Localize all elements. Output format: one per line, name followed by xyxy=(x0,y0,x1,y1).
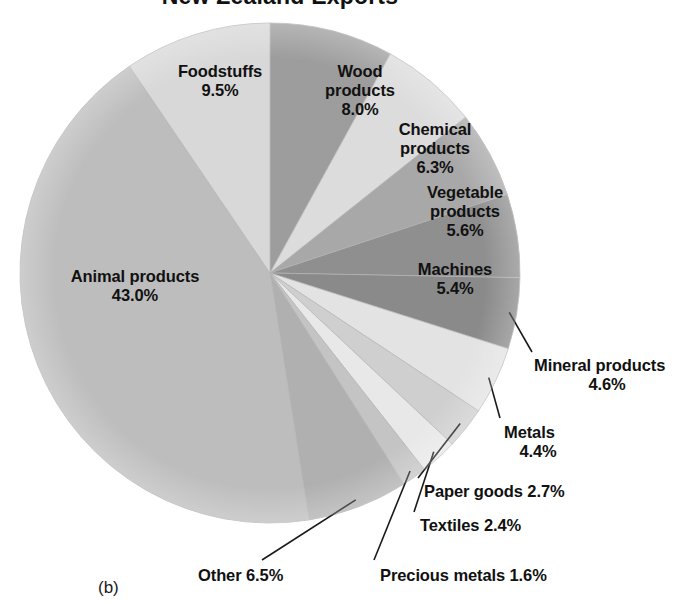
slice-label-textiles: Textiles 2.4% xyxy=(420,516,521,535)
slice-label-vegetable-products-pct: 5.6% xyxy=(395,221,535,240)
slice-label-foodstuffs: Foodstuffs 9.5% xyxy=(140,62,300,100)
slice-label-machines: Machines 5.4% xyxy=(390,260,520,298)
slice-label-metals-pct: 4.4% xyxy=(504,442,572,461)
slice-label-vegetable-products-name2: products xyxy=(395,202,535,221)
slice-label-wood-products-name: Wood xyxy=(337,62,382,80)
slice-label-wood-products-name2: products xyxy=(300,81,420,100)
slice-label-animal-products: Animal products 43.0% xyxy=(30,267,240,305)
slice-label-animal-products-name: Animal products xyxy=(71,267,200,285)
slice-label-paper-goods: Paper goods 2.7% xyxy=(424,482,565,501)
slice-label-foodstuffs-name: Foodstuffs xyxy=(178,62,262,80)
slice-label-chemical-products-name: Chemical xyxy=(399,120,472,138)
slice-label-mineral-products-name: Mineral products xyxy=(534,356,665,374)
slice-label-other: Other 6.5% xyxy=(198,566,283,585)
slice-label-machines-name: Machines xyxy=(418,260,492,278)
slice-label-wood-products: Wood products 8.0% xyxy=(300,62,420,119)
slice-label-foodstuffs-pct: 9.5% xyxy=(140,81,300,100)
slice-label-animal-products-pct: 43.0% xyxy=(30,286,240,305)
slice-label-wood-products-pct: 8.0% xyxy=(300,100,420,119)
slice-label-machines-pct: 5.4% xyxy=(390,279,520,298)
slice-label-vegetable-products-name: Vegetable xyxy=(427,183,503,201)
slice-label-mineral-products-pct: 4.6% xyxy=(534,375,680,394)
slice-label-chemical-products: Chemical products 6.3% xyxy=(370,120,500,177)
slice-label-metals-name: Metals xyxy=(504,423,555,441)
slice-label-metals: Metals 4.4% xyxy=(504,423,614,461)
slice-label-vegetable-products: Vegetable products 5.6% xyxy=(395,183,535,240)
figure-panel: New Zealand Exports Foodstuffs 9.5% Wood… xyxy=(0,0,689,610)
figure-caption: (b) xyxy=(98,578,119,598)
slice-label-mineral-products: Mineral products 4.6% xyxy=(534,356,689,394)
slice-label-chemical-products-name2: products xyxy=(370,139,500,158)
slice-label-chemical-products-pct: 6.3% xyxy=(370,158,500,177)
slice-label-precious-metals: Precious metals 1.6% xyxy=(380,566,547,585)
